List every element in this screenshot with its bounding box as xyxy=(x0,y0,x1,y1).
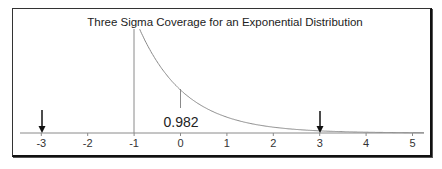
x-tick-label: 4 xyxy=(363,137,369,149)
x-tick-label: 2 xyxy=(270,137,276,149)
x-tick-label: 5 xyxy=(409,137,415,149)
arrow-down-icon xyxy=(39,126,46,133)
x-tick-label: 1 xyxy=(224,137,230,149)
x-axis-ticks: -3-2-1012345 xyxy=(36,133,415,149)
arrow-down-icon xyxy=(317,126,324,133)
chart-title: Three Sigma Coverage for an Exponential … xyxy=(87,16,363,28)
x-tick-label: 3 xyxy=(317,137,323,149)
x-tick-label: 0 xyxy=(177,137,183,149)
lower-sigma-arrow xyxy=(39,110,46,133)
x-tick-label: -2 xyxy=(83,137,93,149)
upper-sigma-arrow xyxy=(317,111,324,133)
x-tick-label: -1 xyxy=(129,137,139,149)
coverage-annotation: 0.982 xyxy=(163,114,198,130)
x-tick-label: -3 xyxy=(36,137,46,149)
chart-plot: Three Sigma Coverage for an Exponential … xyxy=(0,0,442,169)
